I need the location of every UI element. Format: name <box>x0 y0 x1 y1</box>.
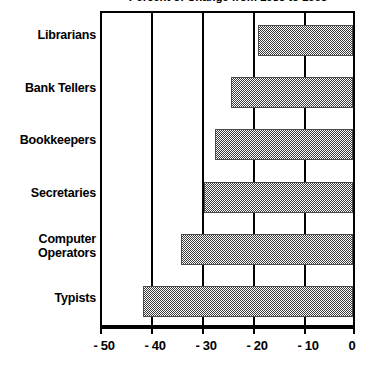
bar-row-librarians <box>102 25 353 56</box>
bar-row-bookkeepers <box>102 129 353 160</box>
x-axis-line <box>100 327 355 329</box>
x-tick-label-minus-40: - 40 <box>144 338 165 353</box>
bar-bookkeepers <box>215 129 353 160</box>
y-label-line: Bookkeepers <box>0 133 96 147</box>
gridline-minus-10 <box>304 13 306 325</box>
x-tick-label-minus-50: - 50 <box>93 338 114 353</box>
x-tick-minus-30 <box>202 327 204 334</box>
bar-typists <box>143 286 353 317</box>
gridline-minus-40 <box>151 13 153 325</box>
bar-row-secretaries <box>102 182 353 213</box>
y-label-line: Operators <box>0 246 96 260</box>
y-label-line: Typists <box>0 291 96 305</box>
plot-area <box>100 11 355 327</box>
y-label-librarians: Librarians <box>0 28 96 42</box>
y-axis-category-labels: Librarians Bank Tellers Bookkeepers Secr… <box>0 11 96 327</box>
y-label-line: Librarians <box>0 28 96 42</box>
bar-computer-operators <box>181 234 353 265</box>
y-label-line: Bank Tellers <box>0 81 96 95</box>
x-tick-minus-20 <box>253 327 255 334</box>
bar-row-bank-tellers <box>102 77 353 108</box>
gridline-minus-30 <box>202 13 204 325</box>
x-tick-label-minus-30: - 30 <box>195 338 216 353</box>
x-tick-minus-50 <box>100 327 102 334</box>
bar-bank-tellers <box>231 77 354 108</box>
y-label-bank-tellers: Bank Tellers <box>0 81 96 95</box>
gridline-minus-20 <box>253 13 255 325</box>
y-label-bookkeepers: Bookkeepers <box>0 133 96 147</box>
y-label-line: Secretaries <box>0 186 96 200</box>
x-tick-label-minus-20: - 20 <box>246 338 267 353</box>
y-label-line: Computer <box>0 232 96 246</box>
bar-librarians <box>258 25 353 56</box>
x-tick-minus-40 <box>151 327 153 334</box>
y-label-computer-operators: Computer Operators <box>0 232 96 260</box>
y-label-typists: Typists <box>0 291 96 305</box>
bar-row-typists <box>102 286 353 317</box>
bar-row-computer-operators <box>102 234 353 265</box>
y-label-secretaries: Secretaries <box>0 186 96 200</box>
x-tick-label-minus-10: - 10 <box>297 338 318 353</box>
bar-chart-figure: Percent of Change from 1983 to 1993 Libr… <box>0 0 370 369</box>
x-tick-zero <box>353 327 355 334</box>
x-tick-label-zero: 0 <box>349 338 356 353</box>
x-tick-minus-10 <box>304 327 306 334</box>
chart-title: Percent of Change from 1983 to 1993 <box>100 0 356 3</box>
bar-secretaries <box>204 182 353 213</box>
